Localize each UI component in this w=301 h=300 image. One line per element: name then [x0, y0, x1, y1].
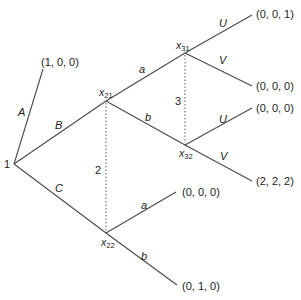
payoff-x31-U: (0, 0, 1) [256, 8, 294, 20]
payoff-x31-V: (0, 0, 0) [256, 80, 294, 92]
action-label-x22-b: b [141, 250, 147, 262]
edge-x32-V [185, 145, 252, 181]
payoff-x32-U: (0, 0, 0) [256, 102, 294, 114]
action-label-A: A [17, 106, 25, 118]
edge-x21-a [106, 53, 185, 101]
action-label-x31-U: U [219, 17, 227, 29]
node-label-x21: x21 [98, 86, 113, 100]
node-label-x32: x32 [178, 147, 193, 161]
info-set-3-label: 3 [175, 95, 181, 107]
payoff-A: (1, 0, 0) [41, 56, 79, 68]
root-player-label: 1 [4, 158, 10, 170]
action-label-x21-a: a [139, 63, 145, 75]
edge-x21-b [106, 101, 185, 145]
edge-C [14, 164, 106, 233]
edge-B [14, 101, 106, 164]
action-label-x22-a: a [141, 199, 147, 211]
action-label-B: B [55, 119, 62, 131]
node-label-x31: x31 [175, 39, 190, 53]
action-label-x31-V: V [219, 54, 228, 66]
action-label-C: C [55, 182, 63, 194]
payoff-x22-a: (0, 0, 0) [182, 186, 220, 198]
action-label-x32-U: U [219, 113, 227, 125]
action-label-x32-V: V [220, 150, 229, 162]
payoff-x32-V: (2, 2, 2) [256, 175, 294, 187]
info-set-2-label: 2 [95, 164, 101, 176]
action-label-x21-b: b [145, 111, 151, 123]
payoff-x22-b: (0, 1, 0) [182, 280, 220, 292]
game-tree-diagram: 1 2 3 A B C a b U V U V a b x21 x31 x32 … [0, 0, 301, 300]
